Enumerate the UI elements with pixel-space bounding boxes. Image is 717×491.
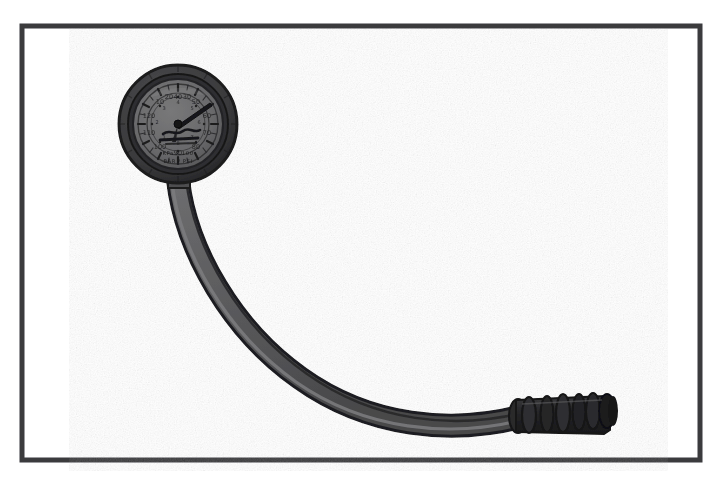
dial-legend-line-2: BAR / PSI [163, 158, 192, 164]
svg-text:2: 2 [155, 119, 158, 125]
svg-text:120: 120 [143, 112, 155, 120]
gauge-illustration-canvas: 40 50 60 70 80 90 100 110 120 10 20 30 4… [0, 0, 717, 491]
fitting-end-cap [608, 396, 618, 426]
svg-text:6: 6 [197, 119, 200, 125]
svg-text:30: 30 [183, 93, 191, 101]
svg-text:60: 60 [203, 112, 211, 120]
fitting-rib [586, 393, 600, 429]
fitting-rib [541, 396, 554, 432]
fitting-rib [556, 394, 570, 432]
svg-text:110: 110 [143, 129, 155, 137]
svg-text:5: 5 [190, 105, 193, 111]
dial-legend-line-1: KPa x 100 [162, 150, 193, 156]
barbed-hose-fitting [509, 393, 618, 434]
fitting-rib [573, 394, 586, 430]
svg-text:4: 4 [176, 99, 179, 105]
illustration-stage: scanned header text cropped at top edge [0, 0, 717, 491]
fitting-rib [522, 397, 536, 433]
svg-text:3: 3 [162, 105, 165, 111]
needle-hub [174, 120, 182, 128]
svg-text:20: 20 [165, 93, 173, 101]
svg-text:70: 70 [203, 129, 211, 137]
